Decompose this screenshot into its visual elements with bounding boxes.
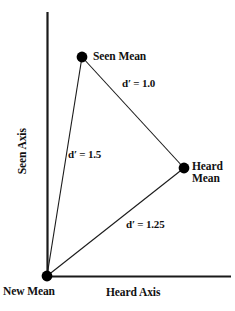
diagram-canvas [0, 0, 235, 311]
point-marker-heard-mean [179, 163, 190, 174]
edge-label-new-to-heard: d′ = 1.25 [126, 219, 164, 231]
edge-new-to-seen [47, 57, 82, 276]
point-label-heard-mean: HeardMean [192, 160, 235, 185]
signal-detection-triangle-figure: Seen Mean HeardMean New Mean Heard Axis … [0, 0, 235, 311]
point-marker-new-mean [42, 271, 53, 282]
point-label-new-mean: New Mean [3, 285, 55, 297]
point-label-heard-mean-line2: Mean [192, 172, 220, 184]
y-axis-label: Seen Axis [16, 121, 28, 181]
edge-label-seen-to-heard: d′ = 1.0 [122, 78, 155, 90]
x-axis-label: Heard Axis [106, 286, 160, 298]
point-label-heard-mean-line1: Heard [192, 160, 223, 172]
edge-label-new-to-seen: d′ = 1.5 [68, 149, 101, 161]
point-marker-seen-mean [77, 52, 88, 63]
point-label-seen-mean: Seen Mean [93, 50, 146, 62]
